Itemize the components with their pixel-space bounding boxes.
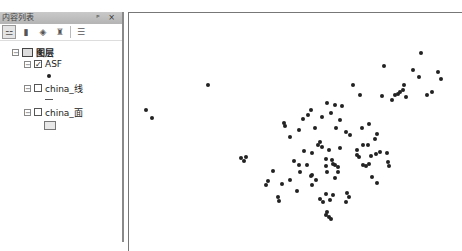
map-point[interactable]	[297, 163, 301, 167]
map-point[interactable]	[367, 122, 371, 126]
map-point[interactable]	[360, 126, 364, 130]
map-point[interactable]	[369, 154, 373, 158]
map-point[interactable]	[271, 169, 275, 173]
map-point[interactable]	[305, 163, 309, 167]
map-point[interactable]	[297, 128, 301, 132]
pin-icon[interactable]: ᵖ	[96, 13, 102, 22]
map-point[interactable]	[336, 165, 340, 169]
map-point[interactable]	[309, 108, 313, 112]
map-point[interactable]	[347, 195, 351, 199]
map-point[interactable]	[325, 101, 329, 105]
map-point[interactable]	[385, 151, 389, 155]
map-point[interactable]	[144, 108, 148, 112]
map-point[interactable]	[411, 68, 415, 72]
options-button[interactable]: ☰	[74, 25, 88, 39]
map-point[interactable]	[333, 103, 337, 107]
map-point[interactable]	[324, 164, 328, 168]
layer-visibility-checkbox[interactable]: ✓	[34, 60, 42, 68]
map-point[interactable]	[333, 176, 337, 180]
map-point[interactable]	[417, 75, 421, 79]
list-by-drawing-order-button[interactable]: ⚍	[2, 25, 16, 39]
map-point[interactable]	[378, 150, 382, 154]
map-point[interactable]	[367, 162, 371, 166]
map-point[interactable]	[336, 170, 340, 174]
map-point[interactable]	[401, 88, 405, 92]
map-point[interactable]	[334, 126, 338, 130]
map-point[interactable]	[298, 170, 302, 174]
map-point[interactable]	[387, 164, 391, 168]
map-point[interactable]	[361, 143, 365, 147]
map-point[interactable]	[310, 183, 314, 187]
map-point[interactable]	[390, 98, 394, 102]
map-point[interactable]	[329, 217, 333, 221]
map-point[interactable]	[302, 149, 306, 153]
map-point[interactable]	[242, 159, 246, 163]
map-view[interactable]	[128, 12, 462, 251]
map-point[interactable]	[382, 64, 386, 68]
map-point[interactable]	[331, 162, 335, 166]
map-point[interactable]	[292, 159, 296, 163]
layer-item-china-polygon[interactable]: − china_面	[24, 106, 83, 118]
map-point[interactable]	[325, 170, 329, 174]
map-point[interactable]	[402, 83, 406, 87]
map-point[interactable]	[344, 200, 348, 204]
collapse-icon[interactable]: −	[24, 85, 31, 92]
map-point[interactable]	[331, 193, 335, 197]
map-point[interactable]	[404, 95, 408, 99]
map-point[interactable]	[324, 157, 328, 161]
map-point[interactable]	[396, 92, 400, 96]
map-point[interactable]	[419, 51, 423, 55]
layer-visibility-checkbox[interactable]	[34, 108, 42, 116]
map-point[interactable]	[370, 175, 374, 179]
map-point[interactable]	[264, 183, 268, 187]
map-point[interactable]	[277, 199, 281, 203]
close-icon[interactable]: ×	[108, 13, 118, 22]
map-point[interactable]	[355, 153, 359, 157]
map-point[interactable]	[206, 83, 210, 87]
collapse-icon[interactable]: −	[24, 61, 31, 68]
map-point[interactable]	[355, 148, 359, 152]
map-point[interactable]	[425, 93, 429, 97]
map-point[interactable]	[338, 118, 342, 122]
map-point[interactable]	[320, 115, 324, 119]
map-point[interactable]	[310, 151, 314, 155]
list-by-visibility-button[interactable]: ◈	[36, 25, 50, 39]
map-point[interactable]	[283, 124, 287, 128]
map-point[interactable]	[375, 181, 379, 185]
map-point[interactable]	[340, 104, 344, 108]
layer-item-asf[interactable]: − ✓ ASF	[24, 58, 62, 70]
map-point[interactable]	[288, 135, 292, 139]
map-point[interactable]	[314, 178, 318, 182]
map-point[interactable]	[313, 126, 317, 130]
map-point[interactable]	[436, 70, 440, 74]
map-point[interactable]	[301, 117, 305, 121]
map-point[interactable]	[430, 90, 434, 94]
map-point[interactable]	[373, 137, 377, 141]
map-point[interactable]	[327, 148, 331, 152]
map-point[interactable]	[338, 146, 342, 150]
map-point[interactable]	[295, 189, 299, 193]
map-point[interactable]	[358, 93, 362, 97]
map-point[interactable]	[309, 174, 313, 178]
map-point[interactable]	[328, 198, 332, 202]
map-point[interactable]	[329, 111, 333, 115]
map-point[interactable]	[439, 77, 443, 81]
collapse-icon[interactable]: −	[24, 109, 31, 116]
list-by-selection-button[interactable]: ♜	[53, 25, 67, 39]
collapse-icon[interactable]: −	[12, 49, 19, 56]
map-point[interactable]	[321, 200, 325, 204]
map-point[interactable]	[324, 192, 328, 196]
map-point[interactable]	[320, 145, 324, 149]
layer-item-china-line[interactable]: − china_线	[24, 82, 83, 94]
map-point[interactable]	[306, 113, 310, 117]
map-point[interactable]	[288, 178, 292, 182]
map-point[interactable]	[366, 143, 370, 147]
map-point[interactable]	[324, 213, 328, 217]
layers-root[interactable]: − 图层	[12, 46, 54, 58]
map-point[interactable]	[348, 133, 352, 137]
map-point[interactable]	[375, 132, 379, 136]
layer-visibility-checkbox[interactable]	[34, 84, 42, 92]
map-point[interactable]	[280, 182, 284, 186]
map-point[interactable]	[150, 116, 154, 120]
list-by-source-button[interactable]: ▮	[19, 25, 33, 39]
